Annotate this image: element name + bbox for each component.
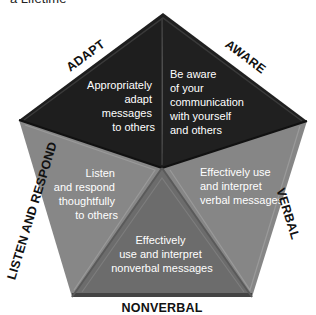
label-nonverbal: NONVERBAL (122, 301, 203, 315)
bottom-shadow (72, 293, 252, 297)
communication-pentagon-diagram: Appropriately adapt messages to others B… (0, 0, 316, 315)
